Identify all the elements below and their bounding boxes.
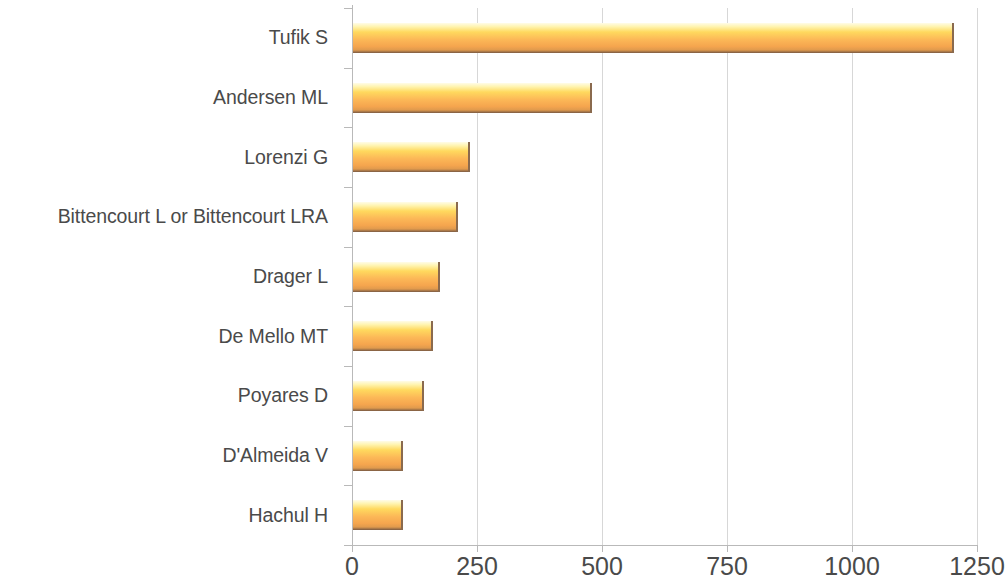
category-tick bbox=[344, 247, 352, 248]
bar[interactable] bbox=[352, 500, 403, 530]
category-tick bbox=[344, 68, 352, 69]
category-axis-labels: Tufik S Andersen ML Lorenzi G Bittencour… bbox=[0, 8, 340, 545]
category-tick bbox=[344, 366, 352, 367]
bar[interactable] bbox=[352, 321, 433, 351]
gridline bbox=[977, 8, 978, 545]
bar[interactable] bbox=[352, 262, 440, 292]
value-tick-label: 500 bbox=[581, 552, 623, 581]
bar[interactable] bbox=[352, 441, 403, 471]
category-label: Hachul H bbox=[0, 485, 340, 545]
category-label: D'Almeida V bbox=[0, 426, 340, 486]
category-axis-line bbox=[344, 545, 978, 546]
category-label: Drager L bbox=[0, 247, 340, 307]
category-tick bbox=[344, 306, 352, 307]
bar[interactable] bbox=[352, 83, 592, 113]
category-label: Poyares D bbox=[0, 366, 340, 426]
value-axis-labels: 025050075010001250 bbox=[0, 552, 1003, 588]
bar-slot bbox=[352, 366, 977, 426]
value-tick bbox=[602, 545, 603, 552]
category-tick bbox=[344, 426, 352, 427]
bar[interactable] bbox=[352, 381, 424, 411]
category-tick bbox=[344, 187, 352, 188]
bar-slot bbox=[352, 187, 977, 247]
value-tick-label: 250 bbox=[456, 552, 498, 581]
bar-slot bbox=[352, 426, 977, 486]
value-tick-label: 0 bbox=[345, 552, 359, 581]
category-tick bbox=[344, 127, 352, 128]
bar-slot bbox=[352, 8, 977, 68]
category-label: Bittencourt L or Bittencourt LRA bbox=[0, 187, 340, 247]
bar[interactable] bbox=[352, 23, 954, 53]
category-tick bbox=[344, 545, 352, 546]
bar-slot bbox=[352, 247, 977, 307]
value-tick-label: 1250 bbox=[949, 552, 1005, 581]
bar[interactable] bbox=[352, 142, 470, 172]
value-tick bbox=[477, 545, 478, 552]
value-tick bbox=[727, 545, 728, 552]
category-tick bbox=[344, 485, 352, 486]
bar[interactable] bbox=[352, 202, 458, 232]
category-label: De Mello MT bbox=[0, 306, 340, 366]
category-label: Tufik S bbox=[0, 8, 340, 68]
value-tick bbox=[352, 545, 353, 552]
bar-slot bbox=[352, 68, 977, 128]
value-tick-label: 750 bbox=[706, 552, 748, 581]
value-tick bbox=[852, 545, 853, 552]
value-tick-label: 1000 bbox=[824, 552, 880, 581]
bar-slot bbox=[352, 306, 977, 366]
bar-series bbox=[352, 8, 977, 545]
category-label: Lorenzi G bbox=[0, 127, 340, 187]
category-tick bbox=[344, 8, 352, 9]
value-tick bbox=[977, 545, 978, 552]
value-axis-line bbox=[352, 5, 353, 546]
plot-area bbox=[352, 8, 977, 545]
bar-slot bbox=[352, 485, 977, 545]
bar-slot bbox=[352, 127, 977, 187]
category-label: Andersen ML bbox=[0, 68, 340, 128]
